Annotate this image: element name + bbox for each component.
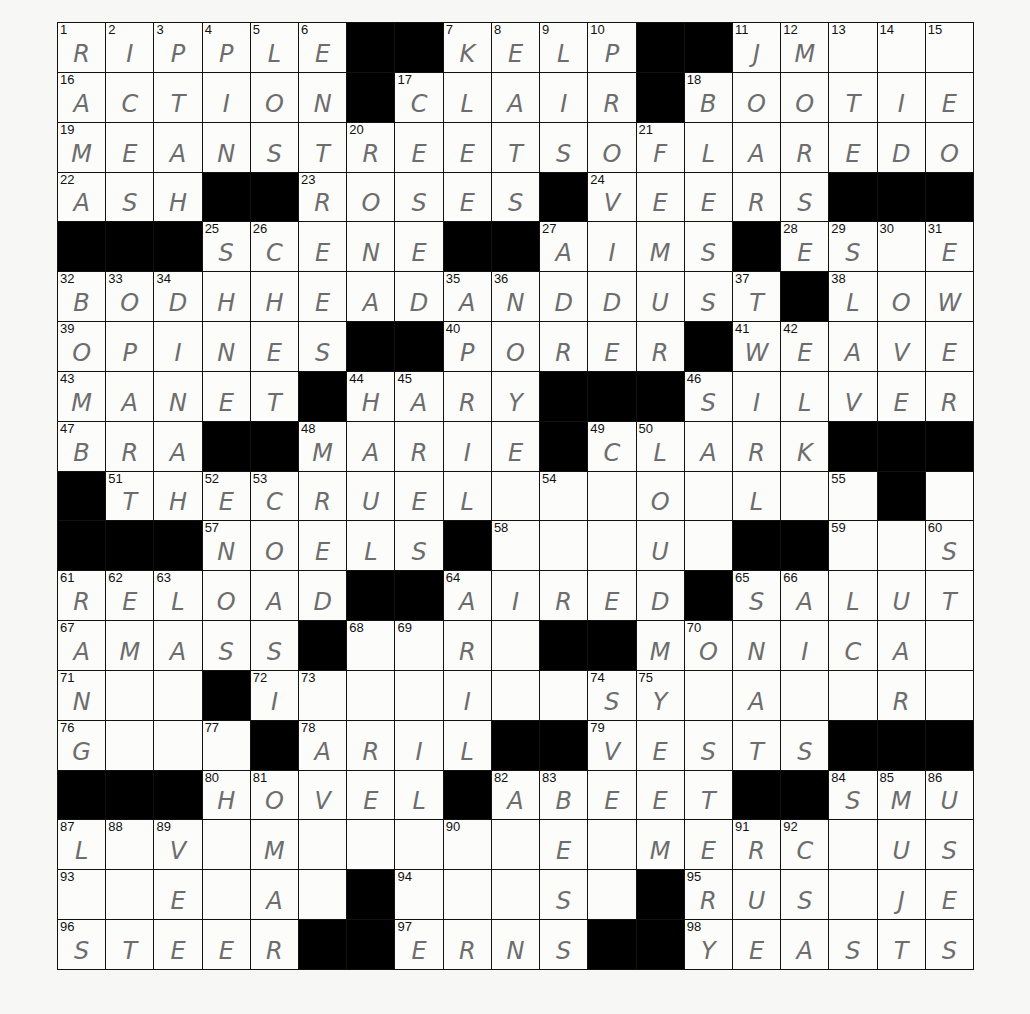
- grid-cell[interactable]: 53C: [251, 472, 298, 521]
- grid-cell[interactable]: A: [251, 870, 298, 919]
- grid-cell[interactable]: E: [878, 372, 925, 421]
- grid-cell[interactable]: S: [251, 621, 298, 670]
- grid-cell[interactable]: [878, 521, 925, 570]
- grid-cell[interactable]: 48M: [299, 422, 346, 471]
- grid-cell[interactable]: 12M: [781, 23, 828, 72]
- grid-cell[interactable]: D: [395, 272, 442, 321]
- grid-cell[interactable]: O: [588, 123, 635, 172]
- grid-cell[interactable]: 30: [878, 222, 925, 271]
- grid-cell[interactable]: U: [878, 571, 925, 620]
- grid-cell[interactable]: 22A: [58, 173, 105, 222]
- grid-cell[interactable]: C: [106, 73, 153, 122]
- grid-cell[interactable]: S: [926, 920, 973, 969]
- grid-cell[interactable]: [347, 820, 394, 869]
- grid-cell[interactable]: S: [395, 173, 442, 222]
- grid-cell[interactable]: 73: [299, 671, 346, 720]
- grid-cell[interactable]: E: [685, 820, 732, 869]
- grid-cell[interactable]: R: [733, 173, 780, 222]
- grid-cell[interactable]: S: [540, 870, 587, 919]
- grid-cell[interactable]: [492, 820, 539, 869]
- grid-cell[interactable]: R: [299, 472, 346, 521]
- grid-cell[interactable]: U: [878, 820, 925, 869]
- grid-cell[interactable]: V: [829, 372, 876, 421]
- grid-cell[interactable]: H: [154, 472, 201, 521]
- grid-cell[interactable]: 92C: [781, 820, 828, 869]
- grid-cell[interactable]: J: [878, 870, 925, 919]
- grid-cell[interactable]: E: [106, 123, 153, 172]
- grid-cell[interactable]: I: [444, 671, 491, 720]
- grid-cell[interactable]: 76G: [58, 721, 105, 770]
- grid-cell[interactable]: 32B: [58, 272, 105, 321]
- grid-cell[interactable]: 2I: [106, 23, 153, 72]
- grid-cell[interactable]: A: [154, 422, 201, 471]
- grid-cell[interactable]: D: [637, 571, 684, 620]
- grid-cell[interactable]: 78A: [299, 721, 346, 770]
- grid-cell[interactable]: T: [829, 73, 876, 122]
- grid-cell[interactable]: 79V: [588, 721, 635, 770]
- grid-cell[interactable]: S: [251, 123, 298, 172]
- grid-cell[interactable]: E: [203, 372, 250, 421]
- grid-cell[interactable]: R: [444, 621, 491, 670]
- grid-cell[interactable]: R: [347, 721, 394, 770]
- grid-cell[interactable]: [926, 472, 973, 521]
- grid-cell[interactable]: R: [878, 671, 925, 720]
- grid-cell[interactable]: E: [926, 322, 973, 371]
- grid-cell[interactable]: [492, 472, 539, 521]
- grid-cell[interactable]: 88: [106, 820, 153, 869]
- grid-cell[interactable]: E: [492, 422, 539, 471]
- grid-cell[interactable]: S: [781, 870, 828, 919]
- grid-cell[interactable]: 63L: [154, 571, 201, 620]
- grid-cell[interactable]: O: [251, 73, 298, 122]
- grid-cell[interactable]: 49C: [588, 422, 635, 471]
- grid-cell[interactable]: 75Y: [637, 671, 684, 720]
- grid-cell[interactable]: E: [588, 322, 635, 371]
- grid-cell[interactable]: [588, 472, 635, 521]
- grid-cell[interactable]: O: [492, 322, 539, 371]
- grid-cell[interactable]: 51T: [106, 472, 153, 521]
- grid-cell[interactable]: 86U: [926, 771, 973, 820]
- grid-cell[interactable]: [106, 721, 153, 770]
- grid-cell[interactable]: S: [781, 173, 828, 222]
- grid-cell[interactable]: T: [251, 372, 298, 421]
- grid-cell[interactable]: L: [444, 472, 491, 521]
- grid-cell[interactable]: [540, 521, 587, 570]
- grid-cell[interactable]: O: [203, 571, 250, 620]
- grid-cell[interactable]: S: [106, 173, 153, 222]
- grid-cell[interactable]: 45A: [395, 372, 442, 421]
- grid-cell[interactable]: 13: [829, 23, 876, 72]
- grid-cell[interactable]: I: [781, 621, 828, 670]
- grid-cell[interactable]: R: [637, 322, 684, 371]
- grid-cell[interactable]: [829, 820, 876, 869]
- grid-cell[interactable]: 9L: [540, 23, 587, 72]
- grid-cell[interactable]: O: [733, 73, 780, 122]
- grid-cell[interactable]: A: [878, 621, 925, 670]
- grid-cell[interactable]: 10P: [588, 23, 635, 72]
- grid-cell[interactable]: D: [588, 272, 635, 321]
- grid-cell[interactable]: 19M: [58, 123, 105, 172]
- grid-cell[interactable]: 25S: [203, 222, 250, 271]
- grid-cell[interactable]: 81O: [251, 771, 298, 820]
- grid-cell[interactable]: [829, 671, 876, 720]
- grid-cell[interactable]: [203, 870, 250, 919]
- grid-cell[interactable]: R: [540, 322, 587, 371]
- grid-cell[interactable]: 58: [492, 521, 539, 570]
- grid-cell[interactable]: T: [299, 123, 346, 172]
- grid-cell[interactable]: E: [154, 920, 201, 969]
- grid-cell[interactable]: N: [203, 322, 250, 371]
- grid-cell[interactable]: 90: [444, 820, 491, 869]
- grid-cell[interactable]: 59: [829, 521, 876, 570]
- grid-cell[interactable]: 96S: [58, 920, 105, 969]
- grid-cell[interactable]: M: [251, 820, 298, 869]
- grid-cell[interactable]: L: [781, 372, 828, 421]
- grid-cell[interactable]: L: [685, 123, 732, 172]
- grid-cell[interactable]: V: [299, 771, 346, 820]
- grid-cell[interactable]: 87L: [58, 820, 105, 869]
- grid-cell[interactable]: M: [637, 222, 684, 271]
- grid-cell[interactable]: I: [154, 322, 201, 371]
- grid-cell[interactable]: A: [685, 422, 732, 471]
- grid-cell[interactable]: [106, 870, 153, 919]
- grid-cell[interactable]: 24V: [588, 173, 635, 222]
- grid-cell[interactable]: H: [203, 272, 250, 321]
- grid-cell[interactable]: E: [926, 73, 973, 122]
- grid-cell[interactable]: [781, 671, 828, 720]
